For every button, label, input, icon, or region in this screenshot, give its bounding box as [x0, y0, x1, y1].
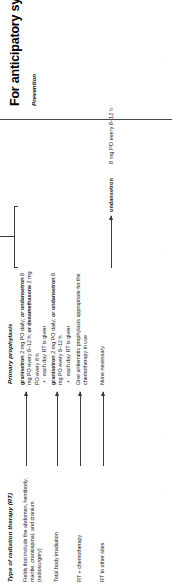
breakthrough-drug-name: ondansetron [108, 178, 114, 212]
rotated-page-canvas: Type of radiation therapy (RT) Primary p… [0, 0, 172, 584]
anticipatory-symptoms-section: For anticipatory symptoms Prevention [0, 0, 172, 106]
column-header-radiation-type: Type of radiation therapy (RT) [6, 493, 13, 582]
row-connector-arrow-icon [57, 392, 58, 466]
brace-tick-right [14, 206, 18, 207]
prophylaxis-bullet: each day RT is given [65, 267, 72, 385]
row-connector-arrow-icon [80, 392, 81, 466]
section-heading: For anticipatory symptoms [8, 0, 22, 106]
drug-name: granisetron [19, 355, 25, 385]
scan-speck [167, 253, 168, 254]
row-connector-arrow-icon [26, 392, 27, 466]
antiemetic-prophylaxis-table: Type of radiation therapy (RT) Primary p… [0, 132, 172, 584]
table-row-radiation-type: RT + chemotherapy [76, 478, 83, 582]
breakthrough-drug-dose: 8 mg PO every 8–12 h [108, 108, 114, 164]
table-row-radiation-type: Fields that include the abdomen, hemibod… [22, 478, 44, 582]
table-row-radiation-type: Total body irradiation [53, 478, 60, 582]
table-row-primary-prophylaxis: None necessary [99, 267, 106, 385]
conjunction-or: or [26, 327, 32, 332]
drug-name: ondansetron [19, 277, 25, 310]
drug-name: ondansetron [50, 277, 56, 310]
table-row-radiation-type: RT to other sites [99, 478, 106, 582]
drug-dose: 2 mg PO daily; [50, 317, 56, 355]
scan-speck [163, 433, 164, 434]
document-page: Type of radiation therapy (RT) Primary p… [0, 0, 172, 584]
brace-horizontal [14, 206, 15, 268]
scan-speck [166, 495, 167, 496]
conjunction-or: or [19, 312, 25, 317]
table-row-primary-prophylaxis: granisetron 2 mg PO daily; or ondansetro… [50, 267, 72, 385]
drug-name: granisetron [50, 355, 56, 385]
column-header-primary-prophylaxis: Primary prophylaxis [6, 324, 13, 384]
brace-tick-left [14, 267, 18, 268]
scan-speck [160, 63, 161, 64]
divider-line [0, 119, 172, 120]
row-connector-arrow-icon [103, 392, 104, 466]
table-row-primary-prophylaxis: Give antiemetic prophylaxis appropriate … [75, 267, 90, 385]
table-row-primary-prophylaxis: granisetron 2 mg PO daily; or ondansetro… [19, 267, 49, 385]
drug-dose: 2 mg PO daily; [19, 317, 25, 355]
brace-stem-arrow-icon [0, 236, 14, 237]
breakthrough-connector-arrow-icon [111, 216, 112, 268]
section-divider [0, 119, 172, 120]
drug-name: dexamethasone [26, 285, 32, 326]
conjunction-or: or [50, 312, 56, 317]
prophylaxis-bullet: each day RT is given [41, 267, 48, 385]
subsection-heading: Prevention [30, 74, 37, 106]
